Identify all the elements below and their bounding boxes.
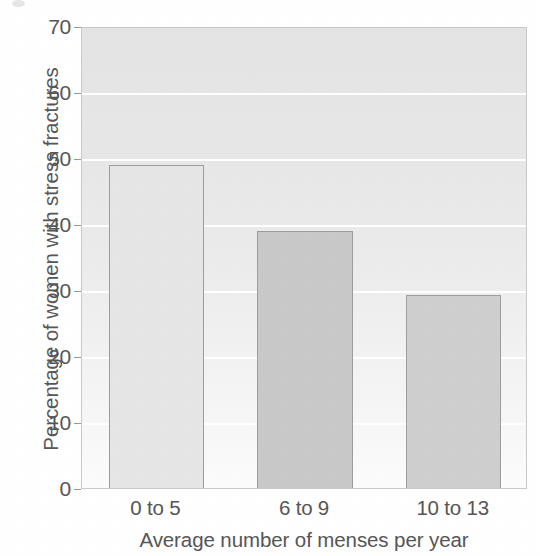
x-tick-label: 0 to 5 xyxy=(81,496,230,520)
gridline xyxy=(82,159,526,161)
y-tick-label: 0 xyxy=(60,476,71,502)
y-tick-label: 10 xyxy=(48,410,71,436)
plot-area xyxy=(81,27,527,489)
x-axis-title: Average number of menses per year xyxy=(81,528,527,552)
x-tick-label: 10 to 13 xyxy=(378,496,527,520)
y-tick-label: 30 xyxy=(48,278,71,304)
y-tick-mark xyxy=(74,93,81,94)
bar-fill xyxy=(110,166,203,489)
y-tick-mark xyxy=(74,423,81,424)
bar xyxy=(109,165,204,489)
y-tick-mark xyxy=(74,225,81,226)
y-tick-label: 40 xyxy=(48,212,71,238)
y-tick-label: 70 xyxy=(48,14,71,40)
bar-fill xyxy=(258,232,351,489)
y-tick-mark xyxy=(74,159,81,160)
bar xyxy=(257,231,352,489)
y-tick-label: 50 xyxy=(48,146,71,172)
gridline xyxy=(82,93,526,95)
y-axis-ticks: 706050403020100 xyxy=(0,0,81,556)
bar-fill xyxy=(407,296,500,489)
y-tick-mark xyxy=(74,357,81,358)
y-tick-mark xyxy=(74,27,81,28)
bar xyxy=(406,295,501,489)
x-axis-ticks: 0 to 56 to 910 to 13 xyxy=(81,496,527,526)
y-tick-label: 60 xyxy=(48,80,71,106)
y-tick-mark xyxy=(74,489,81,490)
x-tick-label: 6 to 9 xyxy=(230,496,379,520)
bar-chart-figure: Percentage of women with stress fracture… xyxy=(0,0,540,556)
y-tick-mark xyxy=(74,291,81,292)
y-tick-label: 20 xyxy=(48,344,71,370)
